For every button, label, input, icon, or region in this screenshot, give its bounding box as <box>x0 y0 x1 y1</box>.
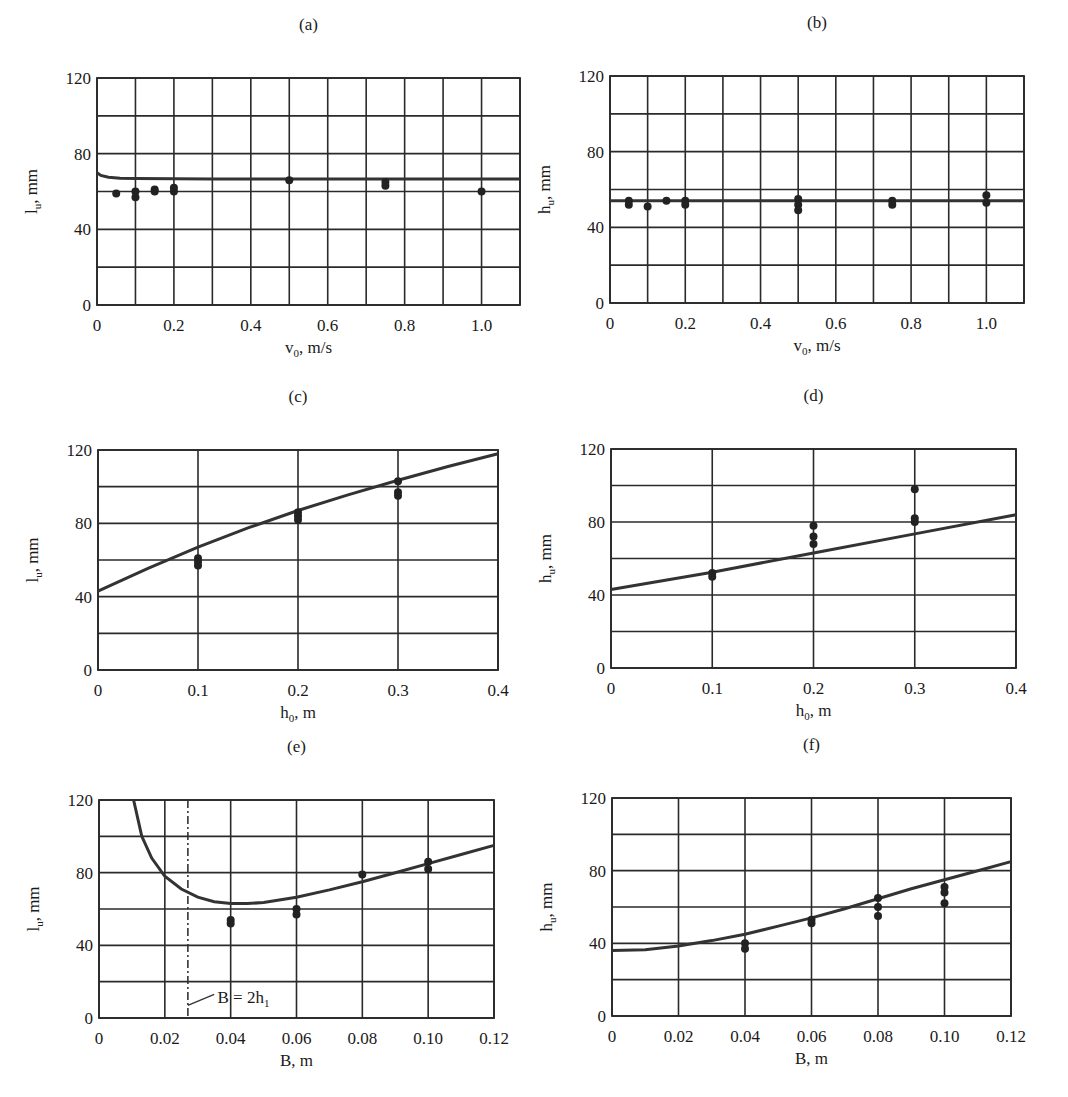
x-tick-label: 0.8 <box>900 314 921 333</box>
x-tick-label: 0.10 <box>930 1027 960 1046</box>
y-tick-label: 120 <box>580 440 606 459</box>
gridlines <box>610 76 1024 303</box>
data-point <box>112 189 120 197</box>
x-tick-label: 0.10 <box>413 1029 443 1048</box>
data-point <box>794 206 802 214</box>
x-tick-label: 0.04 <box>730 1027 760 1046</box>
y-tick-label: 120 <box>67 441 93 460</box>
fit-curve <box>97 173 520 179</box>
data-point <box>941 888 949 896</box>
x-axis-label: B, m <box>280 1051 313 1070</box>
data-point <box>227 920 235 928</box>
panel-title: (c) <box>289 387 308 406</box>
panel-title: (a) <box>299 15 318 34</box>
x-tick-label: 0.4 <box>1005 679 1027 698</box>
data-point <box>662 197 670 205</box>
data-point <box>170 184 178 192</box>
x-tick-label: 1.0 <box>471 316 492 335</box>
x-tick-label: 0.02 <box>150 1029 180 1048</box>
y-tick-label: 80 <box>589 862 606 881</box>
data-points <box>227 858 432 928</box>
x-axis-label: B, m <box>795 1049 828 1068</box>
x-tick-label: 0 <box>606 314 615 333</box>
data-point <box>358 870 366 878</box>
x-tick-label: 0.3 <box>387 681 408 700</box>
x-tick-label: 0 <box>94 681 103 700</box>
x-axis-label: v0, m/s <box>285 338 332 359</box>
panel-a: (a)0408012000.20.40.60.81.0v0, m/slu, mm <box>22 15 520 359</box>
x-tick-label: 0 <box>608 1027 617 1046</box>
gridlines <box>611 449 1016 668</box>
data-point <box>810 533 818 541</box>
x-tick-label: 0.3 <box>904 679 925 698</box>
y-tick-label: 80 <box>75 514 92 533</box>
data-point <box>478 188 486 196</box>
panel-e: (e)0408012000.020.040.060.080.100.12B, m… <box>24 737 509 1070</box>
data-points <box>625 191 991 214</box>
y-tick-label: 80 <box>587 143 604 162</box>
x-tick-label: 0.12 <box>479 1029 509 1048</box>
x-axis-label: h0, m <box>280 703 316 724</box>
data-point <box>131 193 139 201</box>
x-tick-label: 0 <box>93 316 102 335</box>
data-point <box>294 516 302 524</box>
x-tick-label: 0.08 <box>863 1027 893 1046</box>
annotation-leader <box>188 994 214 1005</box>
data-point <box>424 858 432 866</box>
data-point <box>708 573 716 581</box>
x-axis-label: v0, m/s <box>793 336 840 357</box>
gridlines <box>612 798 1011 1016</box>
y-tick-label: 0 <box>83 296 92 315</box>
x-tick-label: 1.0 <box>976 314 997 333</box>
data-point <box>151 186 159 194</box>
annotation-label: B = 2h1 <box>218 988 270 1009</box>
figure-canvas: (a)0408012000.20.40.60.81.0v0, m/slu, mm… <box>0 0 1068 1097</box>
x-tick-label: 0.4 <box>750 314 772 333</box>
y-tick-label: 0 <box>84 661 93 680</box>
x-tick-label: 0.2 <box>803 679 824 698</box>
data-point <box>293 910 301 918</box>
data-point <box>681 201 689 209</box>
x-tick-label: 0.1 <box>187 681 208 700</box>
gridlines <box>97 78 520 305</box>
x-tick-label: 0.04 <box>216 1029 246 1048</box>
x-tick-label: 0.06 <box>797 1027 827 1046</box>
panel-title: (f) <box>803 735 820 754</box>
data-point <box>911 518 919 526</box>
data-point <box>394 477 402 485</box>
data-point <box>941 899 949 907</box>
y-tick-label: 0 <box>597 659 606 678</box>
data-point <box>982 199 990 207</box>
y-tick-label: 120 <box>581 789 607 808</box>
panel-title: (d) <box>804 386 824 405</box>
x-tick-label: 0.2 <box>675 314 696 333</box>
y-tick-label: 0 <box>85 1009 94 1028</box>
y-tick-label: 80 <box>74 145 91 164</box>
x-tick-label: 0 <box>95 1029 104 1048</box>
y-tick-label: 120 <box>66 69 92 88</box>
y-axis-label: hu, mm <box>536 534 557 583</box>
data-point <box>874 894 882 902</box>
y-axis-label: lu, mm <box>23 537 44 582</box>
x-tick-label: 0.4 <box>487 681 509 700</box>
data-point <box>394 492 402 500</box>
x-tick-label: 0.2 <box>287 681 308 700</box>
x-tick-label: 0.2 <box>163 316 184 335</box>
x-axis-label: h0, m <box>796 701 832 722</box>
data-point <box>424 865 432 873</box>
y-axis-label: hu, mm <box>537 883 558 932</box>
data-point <box>810 522 818 530</box>
y-tick-label: 40 <box>75 588 92 607</box>
y-tick-label: 120 <box>68 791 94 810</box>
y-tick-label: 0 <box>598 1007 607 1026</box>
data-point <box>285 176 293 184</box>
x-tick-label: 0.8 <box>394 316 415 335</box>
x-tick-label: 0.12 <box>996 1027 1026 1046</box>
y-tick-label: 40 <box>76 936 93 955</box>
x-tick-label: 0.4 <box>240 316 262 335</box>
data-point <box>808 919 816 927</box>
y-tick-label: 80 <box>588 513 605 532</box>
x-tick-label: 0.08 <box>347 1029 377 1048</box>
data-point <box>644 203 652 211</box>
x-tick-label: 0.6 <box>825 314 846 333</box>
